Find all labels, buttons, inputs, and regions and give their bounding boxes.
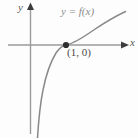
y-axis-arrow-icon [27, 3, 34, 11]
function-label: y = f(x) [61, 6, 94, 17]
x-axis-label: x [130, 37, 135, 48]
x-axis-arrow-icon [121, 41, 129, 48]
graph-canvas [0, 0, 138, 138]
figure-container: y x y = f(x) (1, 0) [0, 0, 138, 138]
y-axis-label: y [18, 2, 23, 13]
function-curve [38, 12, 126, 139]
point-coordinate-label: (1, 0) [67, 47, 91, 58]
